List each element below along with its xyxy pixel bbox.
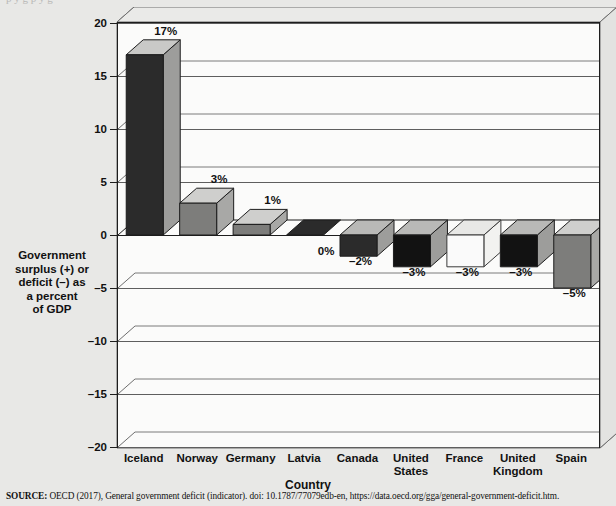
y-axis-title-line: deficit (–) as <box>6 276 98 290</box>
y-axis-tick-label: 20 <box>94 17 107 29</box>
gridline <box>118 447 599 448</box>
x-axis-category-line: Spain <box>531 452 611 465</box>
bar-value-label: –5% <box>546 287 602 299</box>
source-label: SOURCE: <box>6 491 47 501</box>
y-axis-tick <box>110 182 117 183</box>
x-axis-category-label: Spain <box>531 452 611 465</box>
bar <box>118 23 599 447</box>
y-axis-tick-label: 10 <box>94 123 107 135</box>
y-axis-tick <box>110 447 117 448</box>
x-axis-category-line: Kingdom <box>478 465 558 478</box>
y-axis-title-line: of GDP <box>6 303 98 317</box>
chart-3d-box: 20151050–5–10–15–2017%3%1%0%–2%–3%–3%–3%… <box>96 7 616 452</box>
y-axis-tick <box>110 129 117 130</box>
y-axis-title: Governmentsurplus (+) ordeficit (–) asa … <box>6 249 98 317</box>
y-axis-tick-label: 0 <box>101 229 107 241</box>
y-axis-tick <box>110 235 117 236</box>
y-axis-tick <box>110 341 117 342</box>
x-axis-category-line: States <box>371 465 451 478</box>
figure-container: p y g p y g 20151050–5–10–15–2017%3%1%0%… <box>0 0 616 506</box>
y-axis-tick-label: –15 <box>88 388 107 400</box>
plot-area: 20151050–5–10–15–2017%3%1%0%–2%–3%–3%–3%… <box>117 22 600 448</box>
y-axis-tick-label: 5 <box>101 176 107 188</box>
y-axis-tick <box>110 76 117 77</box>
y-axis-tick-label: –10 <box>88 335 107 347</box>
source-note: SOURCE: OECD (2017), General government … <box>6 491 612 501</box>
y-axis-tick <box>110 23 117 24</box>
top-bleed-text: p y g p y g <box>6 0 53 4</box>
source-text: OECD (2017), General government deficit … <box>49 491 559 501</box>
y-axis-tick <box>110 288 117 289</box>
x-axis-title: Country <box>0 478 616 492</box>
y-axis-tick-label: 15 <box>94 70 107 82</box>
y-axis-title-line: a percent <box>6 290 98 304</box>
y-axis-tick <box>110 394 117 395</box>
y-axis-title-line: Government <box>6 249 98 263</box>
y-axis-title-line: surplus (+) or <box>6 263 98 277</box>
